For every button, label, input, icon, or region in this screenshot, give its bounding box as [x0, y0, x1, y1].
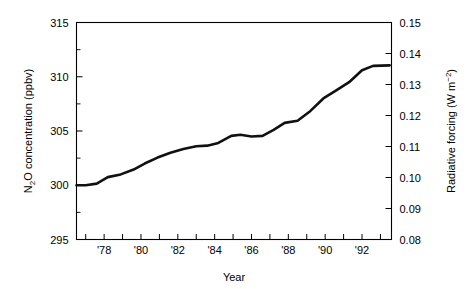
x-axis-ticks: [86, 234, 381, 240]
y-right-tick-label: 0.13: [400, 79, 421, 91]
y-right-tick-label: 0.10: [400, 172, 421, 184]
y-left-tick-label: 305: [50, 125, 68, 137]
plot-frame: [77, 23, 392, 240]
y-right-tick-label: 0.15: [400, 17, 421, 29]
x-tick-label: '88: [281, 244, 295, 256]
y-right-tick-label: 0.12: [400, 110, 421, 122]
x-axis-title: Year: [223, 271, 246, 283]
y-right-axis-ticks: [386, 23, 392, 240]
y-left-tick-label: 315: [50, 17, 68, 29]
y-left-axis-title: N2O concentration (ppbv): [22, 69, 37, 193]
y-left-tick-label: 310: [50, 71, 68, 83]
y-left-axis-tick-labels: 295300305310315: [50, 17, 68, 246]
chart-figure: '78'80'82'84'86'88'90'92 295300305310315…: [0, 0, 476, 289]
n2o-data-line: [77, 65, 390, 185]
y-left-tick-label: 300: [50, 179, 68, 191]
y-left-axis-ticks: [77, 23, 83, 240]
x-axis-tick-labels: '78'80'82'84'86'88'90'92: [97, 244, 369, 256]
y-left-tick-label: 295: [50, 234, 68, 246]
x-tick-label: '92: [355, 244, 369, 256]
y-right-tick-label: 0.14: [400, 48, 421, 60]
y-right-tick-label: 0.09: [400, 203, 421, 215]
y-right-axis-tick-labels: 0.080.090.100.110.120.130.140.15: [400, 17, 421, 246]
n2o-concentration-line-chart: '78'80'82'84'86'88'90'92 295300305310315…: [0, 0, 476, 289]
x-tick-label: '80: [134, 244, 148, 256]
x-tick-label: '78: [97, 244, 111, 256]
y-right-tick-label: 0.08: [400, 234, 421, 246]
x-tick-label: '82: [171, 244, 185, 256]
y-right-axis-title: Radiative forcing (W m−2): [444, 69, 457, 193]
y-right-tick-label: 0.11: [400, 141, 421, 153]
x-tick-label: '84: [207, 244, 221, 256]
x-tick-label: '86: [244, 244, 258, 256]
x-tick-label: '90: [318, 244, 332, 256]
